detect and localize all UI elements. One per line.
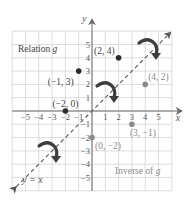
inverse-point: (4, 2) bbox=[142, 72, 168, 87]
y-tick-label: 5 bbox=[86, 40, 90, 50]
x-tick-label: −4 bbox=[34, 112, 44, 122]
data-points: (−1, 3)(2, 4)(−2, 0)(3, −1)(4, 2)(0, −2) bbox=[48, 46, 169, 152]
x-tick-label: 1 bbox=[103, 112, 107, 122]
y-tick-label: −4 bbox=[81, 159, 91, 169]
x-tick-labels: −5−4−3−2−112345 bbox=[21, 112, 161, 122]
x-tick-label: −5 bbox=[21, 112, 30, 122]
x-tick-label: 2 bbox=[116, 112, 120, 122]
y-tick-label: 1 bbox=[86, 93, 90, 103]
y-tick-label: −2 bbox=[81, 133, 90, 143]
x-tick-label: 3 bbox=[130, 112, 134, 122]
curved-arrow-icon bbox=[139, 40, 161, 60]
y-axis-label: y bbox=[81, 13, 87, 24]
y-tick-label: 3 bbox=[86, 66, 90, 76]
y-tick-label: 2 bbox=[86, 79, 90, 89]
point-label: (3, −1) bbox=[130, 128, 156, 139]
y-tick-label: −1 bbox=[81, 119, 90, 129]
y-tick-label: −3 bbox=[81, 146, 90, 156]
x-tick-label: −3 bbox=[48, 112, 57, 122]
x-tick-label: 5 bbox=[156, 112, 160, 122]
x-axis-label: x bbox=[175, 112, 181, 123]
curved-arrow-icon bbox=[97, 83, 119, 103]
relation-point: (2, 4) bbox=[94, 46, 121, 61]
inverse-of-g-label: Inverse of g bbox=[115, 166, 161, 176]
point-label: (4, 2) bbox=[148, 72, 169, 83]
point-label: (2, 4) bbox=[94, 46, 115, 57]
y-tick-label: −5 bbox=[81, 173, 90, 183]
point-label: (−2, 0) bbox=[52, 99, 78, 110]
point-label: (−1, 3) bbox=[48, 77, 74, 88]
coordinate-plane: x y −5−4−3−2−112345 −5−4−3−2−112345 (−1,… bbox=[0, 0, 196, 203]
point-label: (0, −2) bbox=[95, 141, 121, 152]
x-tick-label: 4 bbox=[143, 112, 148, 122]
relation-g-label: Relation g bbox=[18, 44, 58, 54]
y-equals-x-label: y = x bbox=[21, 174, 43, 185]
